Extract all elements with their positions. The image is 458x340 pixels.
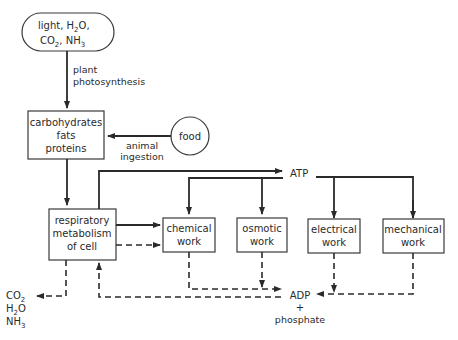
adp-to-respiration-dashed	[99, 263, 281, 297]
photosynthesis-label-1: plant	[73, 64, 98, 75]
svg-text:proteins: proteins	[46, 143, 87, 154]
energy-flow-diagram: light, H2O, CO2, NH3 plant photosynthesi…	[0, 0, 458, 340]
nutrients-node: carbohydrates fats proteins	[28, 111, 104, 159]
chemical-work-node: chemical work	[163, 218, 215, 252]
svg-text:food: food	[179, 131, 201, 142]
svg-text:osmotic: osmotic	[242, 223, 281, 234]
ingestion-label-1: animal	[126, 140, 158, 151]
osmotic-work-node: osmotic work	[237, 218, 287, 252]
electrical-work-node: electrical work	[308, 219, 360, 253]
svg-text:phosphate: phosphate	[275, 314, 325, 325]
atp-to-chemical-arrow	[189, 178, 283, 214]
ingestion-label-2: ingestion	[120, 151, 164, 162]
mechanical-work-node: mechanical work	[383, 219, 444, 253]
wastes-node: CO2 H2O NH3	[6, 290, 26, 330]
svg-text:NH3: NH3	[6, 316, 25, 330]
food-node: food	[171, 117, 209, 155]
chemical-to-adp-dashed	[189, 252, 281, 289]
inputs-node: light, H2O, CO2, NH3	[22, 13, 114, 51]
respiration-to-wastes-dashed	[37, 260, 66, 296]
svg-text:metabolism: metabolism	[53, 228, 112, 239]
svg-text:carbohydrates: carbohydrates	[30, 117, 102, 128]
svg-text:work: work	[250, 236, 274, 247]
svg-text:respiratory: respiratory	[55, 215, 110, 226]
svg-text:work: work	[177, 236, 201, 247]
svg-text:electrical: electrical	[311, 224, 357, 235]
respiration-to-atp-arrow	[99, 171, 282, 209]
svg-text:H2O: H2O	[6, 303, 26, 317]
respiration-node: respiratory metabolism of cell	[49, 209, 116, 260]
svg-text:CO2: CO2	[6, 290, 25, 304]
svg-text:fats: fats	[57, 130, 76, 141]
adp-node: ADP + phosphate	[275, 290, 325, 325]
svg-text:chemical: chemical	[167, 223, 212, 234]
svg-text:mechanical: mechanical	[384, 224, 441, 235]
svg-text:ADP: ADP	[290, 290, 311, 301]
svg-text:work: work	[322, 237, 346, 248]
svg-text:+: +	[296, 302, 304, 313]
photosynthesis-label-2: photosynthesis	[73, 76, 145, 87]
atp-branch-line	[316, 177, 413, 218]
svg-text:of cell: of cell	[67, 241, 97, 252]
svg-text:work: work	[401, 237, 425, 248]
mechanical-to-adp-dashed	[317, 253, 413, 294]
atp-label: ATP	[290, 168, 308, 179]
